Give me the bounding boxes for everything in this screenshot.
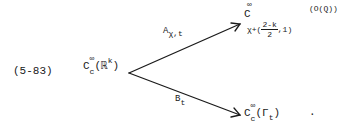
- upper-arrow-shaft: [129, 24, 240, 73]
- lower-target-gamma: Γ: [262, 107, 269, 119]
- upper-target-fraction: 2-k2: [261, 20, 277, 39]
- upper-target-sup: ∞: [247, 0, 252, 9]
- lower-target-sup: ∞: [251, 102, 256, 110]
- lower-map-label-sub: t: [180, 98, 185, 107]
- upper-target-sub-suffix: ,1): [278, 25, 292, 34]
- upper-target-space: C ∞ χ+(2-k2,1) (O(Q)): [244, 8, 292, 39]
- upper-map-label-sub: χ,t: [168, 29, 182, 38]
- lower-target-gamma-sub: t: [269, 113, 274, 122]
- lower-target-base: C: [244, 107, 251, 119]
- lower-target-space: C∞c(Γt): [244, 105, 280, 121]
- upper-target-argument: (O(Q)): [309, 4, 338, 13]
- upper-target-base: C: [244, 8, 251, 20]
- lower-target-close: ): [273, 107, 280, 119]
- upper-target-sub-prefix: χ+(: [247, 25, 261, 34]
- upper-map-label: Aχ,t: [163, 26, 183, 36]
- lower-map-label: Bt: [175, 94, 185, 104]
- fraction-denominator: 2: [261, 30, 277, 39]
- fraction-numerator: 2-k: [261, 20, 277, 30]
- map-arrows: [0, 0, 359, 133]
- lower-target-sub: c: [251, 115, 256, 123]
- trailing-period: .: [309, 106, 316, 118]
